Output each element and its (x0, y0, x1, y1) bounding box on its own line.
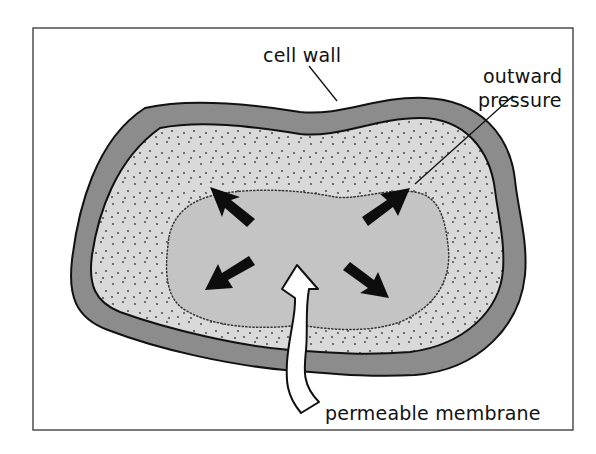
label-outward-pressure-line2: pressure (478, 89, 562, 111)
label-outward-pressure-line1: outward (483, 65, 562, 87)
label-permeable-membrane: permeable membrane (325, 402, 541, 424)
turgor-pressure-diagram: cell wall outward pressure permeable mem… (0, 0, 596, 454)
label-cell-wall: cell wall (263, 44, 341, 66)
